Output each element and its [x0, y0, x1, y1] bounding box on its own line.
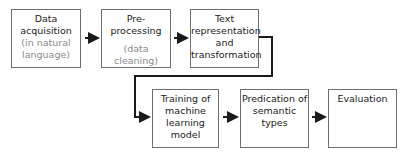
step-data-acquisition: Data acquisition (in natural language): [11, 9, 81, 68]
step-title-line: learning model: [153, 117, 218, 141]
step-title-line: Pre-processing: [102, 13, 170, 37]
step-title-line: Training of: [153, 93, 218, 105]
step-title-line: Text: [191, 13, 258, 25]
step-title-line: acquisition: [12, 25, 80, 37]
step-predication: Predication of semantic types: [240, 89, 309, 148]
step-note-line: language): [12, 49, 80, 61]
step-title-line: transformation: [191, 49, 258, 61]
step-pre-processing: Pre-processing (data cleaning): [101, 9, 171, 68]
step-note-line: (in natural: [12, 37, 80, 49]
step-title-line: representation: [191, 25, 258, 37]
step-title-line: and: [191, 37, 258, 49]
step-title-line: Predication of: [241, 93, 308, 105]
step-note-line: (data: [102, 43, 170, 55]
step-title-line: Data: [12, 13, 80, 25]
step-training-model: Training of machine learning model: [152, 89, 219, 148]
step-title-line: semantic types: [241, 105, 308, 129]
step-note-line: cleaning): [102, 55, 170, 67]
step-title-line: machine: [153, 105, 218, 117]
step-title-line: Evaluation: [329, 93, 396, 105]
step-text-representation: Text representation and transformation: [190, 9, 259, 68]
step-evaluation: Evaluation: [328, 89, 397, 148]
